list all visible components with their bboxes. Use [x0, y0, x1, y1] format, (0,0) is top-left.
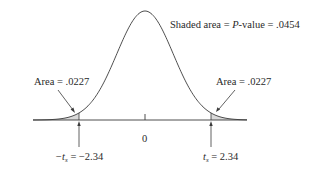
right-area-label: Area = .0227: [216, 77, 271, 88]
left-critical-symbol: −t: [55, 151, 65, 162]
left-area-leader-arrow: [58, 90, 75, 113]
right-critical-value: = 2.34: [209, 151, 239, 162]
right-area-leader-arrow: [216, 90, 235, 112]
total-annotation-suffix: -value = .0454: [239, 19, 300, 30]
zero-tick-label: 0: [142, 134, 147, 145]
t-distribution-figure: Shaded area = P-value = .0454 Area = .02…: [0, 0, 313, 177]
total-annotation-prefix: Shaded area =: [170, 19, 232, 30]
right-critical-arrow: [209, 121, 212, 147]
total-p-value-annotation: Shaded area = P-value = .0454: [170, 20, 300, 31]
right-critical-label: ts = 2.34: [203, 152, 238, 164]
left-critical-label: −ts = −2.34: [55, 152, 103, 164]
left-area-label: Area = .0227: [34, 77, 89, 88]
left-critical-value: = −2.34: [68, 151, 103, 162]
left-critical-arrow: [77, 121, 80, 147]
